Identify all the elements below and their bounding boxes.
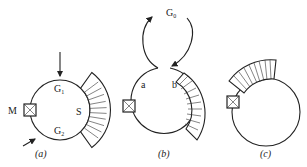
panel-c: (c)	[227, 60, 300, 160]
stack-c	[229, 60, 276, 93]
panel-b: G0 a b (b)	[123, 7, 205, 160]
caption-a: (a)	[35, 148, 47, 160]
label-a: a	[141, 79, 146, 90]
caption-c: (c)	[260, 148, 272, 160]
diagram-canvas: G1 G2 S M (a)	[0, 0, 307, 167]
caption-b: (b)	[158, 148, 170, 160]
loop-in-b	[172, 18, 192, 66]
stack-a	[81, 73, 111, 148]
loop-out-b	[143, 17, 158, 68]
stack-b	[176, 73, 205, 140]
label-s: S	[76, 106, 82, 117]
input-arrow-bottom-a	[23, 139, 35, 146]
mixer-box-a	[24, 104, 36, 116]
mixer-box-b	[123, 100, 135, 112]
label-b: b	[172, 79, 177, 90]
label-m: M	[8, 105, 17, 116]
panel-a: G1 G2 S M (a)	[8, 52, 110, 160]
label-g2: G2	[54, 125, 64, 137]
label-g1: G1	[54, 83, 64, 95]
mixer-box-c	[227, 96, 239, 108]
label-g0: G0	[166, 7, 176, 19]
